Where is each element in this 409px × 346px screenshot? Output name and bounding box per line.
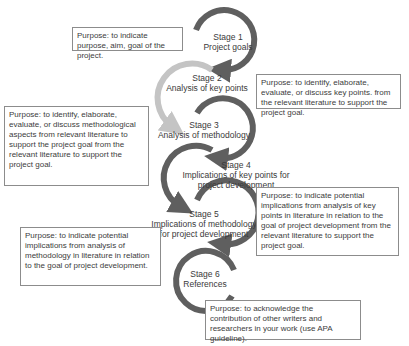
purpose-box-stage-3: Purpose: to identify, elaborate, evaluat… bbox=[4, 106, 149, 186]
stage-2-label: Stage 2 Analysis of key points bbox=[166, 73, 248, 93]
stage-5-title-line-2: for project development bbox=[151, 229, 256, 239]
stage-6-title: References bbox=[183, 279, 226, 289]
stage-6-label: Stage 6 References bbox=[183, 269, 226, 289]
purpose-box-stage-4: Purpose: to indicate potential implicati… bbox=[256, 187, 399, 256]
stage-4-title-line-1: Implications of key points for bbox=[182, 170, 289, 180]
stage-1-title: Project goals bbox=[203, 42, 252, 52]
stage-1-label: Stage 1 Project goals bbox=[203, 32, 252, 52]
stage-3-title: Analysis of methodology bbox=[158, 130, 250, 140]
purpose-box-stage-1: Purpose: to indicate purpose, aim, goal … bbox=[72, 27, 183, 51]
stage-5-label: Stage 5 Implications of methodology for … bbox=[151, 209, 256, 239]
stage-5-title-line-1: Implications of methodology bbox=[151, 219, 256, 229]
stage-4-label: Stage 4 Implications of key points for p… bbox=[182, 160, 289, 190]
purpose-box-stage-5: Purpose: to indicate potential implicati… bbox=[20, 227, 161, 286]
stage-4-number: Stage 4 bbox=[182, 160, 289, 170]
stage-1-number: Stage 1 bbox=[203, 32, 252, 42]
stage-3-label: Stage 3 Analysis of methodology bbox=[158, 120, 250, 140]
purpose-box-stage-6: Purpose: to acknowledge the contribution… bbox=[205, 300, 361, 340]
stage-5-number: Stage 5 bbox=[151, 209, 256, 219]
stage-2-number: Stage 2 bbox=[166, 73, 248, 83]
stage-6-number: Stage 6 bbox=[183, 269, 226, 279]
stage-2-title: Analysis of key points bbox=[166, 83, 248, 93]
stage-3-number: Stage 3 bbox=[158, 120, 250, 130]
purpose-box-stage-2: Purpose: to identify, elaborate, evaluat… bbox=[256, 74, 401, 109]
